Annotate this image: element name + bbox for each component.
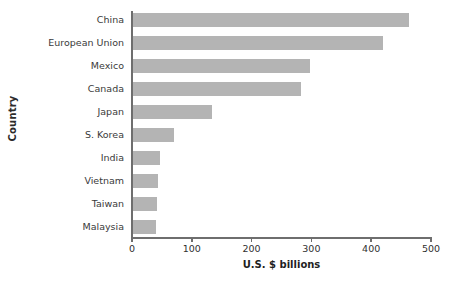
bar: [132, 105, 212, 119]
y-axis-tick-label: Taiwan: [92, 197, 124, 211]
x-axis-tick: [430, 238, 432, 242]
y-axis-tick-label: India: [101, 151, 124, 165]
bar-chart: Country ChinaEuropean UnionMexicoCanadaJ…: [0, 0, 462, 284]
bar: [132, 82, 301, 96]
bar: [132, 59, 310, 73]
y-axis-tick-label: Vietnam: [84, 174, 124, 188]
x-axis-tick: [191, 238, 193, 242]
y-axis-tick-label: European Union: [48, 36, 124, 50]
bar: [132, 174, 158, 188]
bar: [132, 197, 157, 211]
y-axis-tick-label: S. Korea: [85, 128, 124, 142]
bar: [132, 36, 383, 50]
x-axis-tick-label: 0: [129, 243, 135, 254]
x-axis-tick-label: 200: [243, 243, 261, 254]
y-axis-tick-label: China: [97, 13, 124, 27]
x-axis-tick-label: 100: [183, 243, 201, 254]
x-axis-tick-label: 500: [422, 243, 440, 254]
x-axis-tick: [251, 238, 253, 242]
bar: [132, 128, 174, 142]
x-axis-tick: [131, 238, 133, 242]
y-axis-title: Country: [0, 0, 24, 237]
x-axis-line: [131, 237, 432, 239]
y-axis-tick-label: Mexico: [91, 59, 124, 73]
y-axis-title-text: Country: [7, 95, 18, 141]
x-axis-tick: [311, 238, 313, 242]
bar: [132, 220, 156, 234]
y-axis-tick-label: Malaysia: [82, 220, 124, 234]
plot-area: [132, 13, 431, 237]
y-axis-tick-labels: ChinaEuropean UnionMexicoCanadaJapanS. K…: [24, 13, 128, 237]
x-axis-tick: [370, 238, 372, 242]
x-axis-title: U.S. $ billions: [132, 259, 431, 270]
y-axis-tick-label: Japan: [98, 105, 125, 119]
y-axis-tick-label: Canada: [88, 82, 124, 96]
x-axis-tick-label: 300: [302, 243, 320, 254]
bar: [132, 13, 409, 27]
bar: [132, 151, 160, 165]
y-axis-line: [131, 11, 133, 238]
x-axis-tick-label: 400: [362, 243, 380, 254]
